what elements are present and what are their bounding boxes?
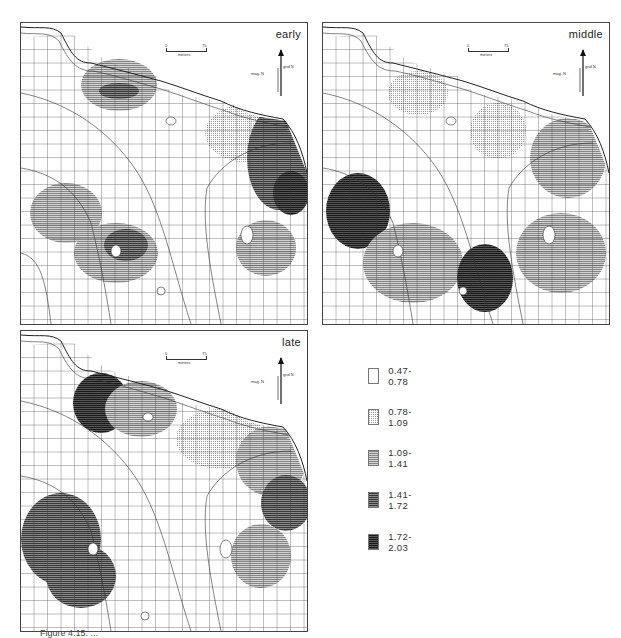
north-arrow: grid N mag. N <box>261 48 301 98</box>
period-label: middle <box>569 28 603 40</box>
north-arrow: grid N mag. N <box>261 356 301 406</box>
period-label: late <box>282 336 301 348</box>
legend-item: 1.09-1.41 <box>368 450 417 466</box>
legend-swatch <box>368 450 379 466</box>
map-panel-middle: middle 0 75 meters grid N mag. N <box>322 22 610 325</box>
legend-item: 0.47-0.78 <box>368 368 417 384</box>
legend-swatch <box>368 534 379 550</box>
legend-item: 1.72-2.03 <box>368 534 417 550</box>
north-arrow: grid N mag. N <box>563 48 603 98</box>
period-label: early <box>276 28 301 40</box>
map-panel-late: late 0 75 meters grid N mag. N <box>20 330 308 632</box>
legend-item: 0.78-1.09 <box>368 409 417 425</box>
legend-item: 1.41-1.72 <box>368 492 417 508</box>
legend-swatch <box>368 409 379 425</box>
map-panel-early: early 0 75 meters grid N mag. N <box>20 22 308 325</box>
legend-swatch <box>368 368 379 384</box>
figure-caption: Figure 4.15. ... <box>40 628 98 638</box>
legend-swatch <box>368 492 379 508</box>
